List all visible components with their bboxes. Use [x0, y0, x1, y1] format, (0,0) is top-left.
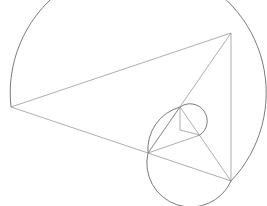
- edge-AB: [11, 33, 231, 107]
- edge-DC: [148, 153, 231, 181]
- edge-AD: [11, 107, 148, 153]
- edge-GF: [180, 130, 200, 135]
- small-arc: [180, 104, 207, 135]
- triangle-edges: [11, 33, 231, 181]
- edge-EC: [180, 107, 231, 181]
- large-arc: [10, 0, 266, 181]
- edge-DF: [148, 135, 200, 153]
- spiral-arcs: [10, 0, 266, 206]
- geometry-diagram: [0, 0, 267, 206]
